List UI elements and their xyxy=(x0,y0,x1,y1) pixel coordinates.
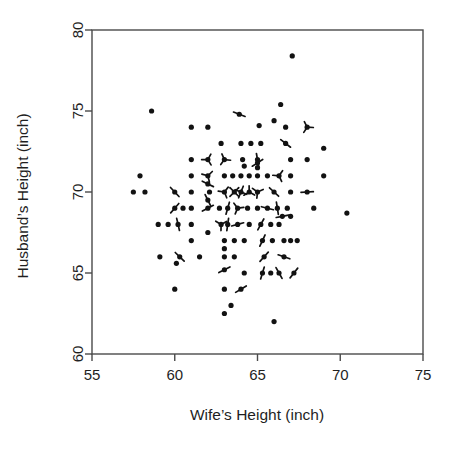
data-point xyxy=(247,173,252,178)
data-point xyxy=(202,205,213,211)
point-marker xyxy=(222,157,227,162)
data-point xyxy=(276,268,282,279)
data-point xyxy=(278,254,290,259)
point-marker xyxy=(175,222,180,227)
data-point xyxy=(255,206,260,211)
point-marker xyxy=(218,222,223,227)
data-point xyxy=(305,157,310,162)
data-point xyxy=(288,173,293,178)
data-point xyxy=(270,188,279,196)
data-point xyxy=(311,206,316,211)
point-marker xyxy=(245,206,250,211)
point-marker xyxy=(285,206,290,211)
point-marker xyxy=(258,222,263,227)
point-marker xyxy=(344,210,349,215)
data-point xyxy=(232,238,237,243)
data-point xyxy=(174,261,179,266)
data-point xyxy=(301,189,313,194)
point-marker xyxy=(276,270,281,275)
data-point xyxy=(236,286,247,292)
point-marker xyxy=(255,189,260,194)
point-marker xyxy=(218,141,223,146)
data-point xyxy=(205,125,210,130)
point-marker xyxy=(238,189,243,194)
point-marker xyxy=(230,173,235,178)
point-marker xyxy=(166,222,171,227)
point-marker xyxy=(260,238,265,243)
data-point xyxy=(207,189,212,194)
point-marker xyxy=(271,118,276,123)
point-marker xyxy=(242,238,247,243)
data-point xyxy=(252,188,263,198)
point-marker xyxy=(238,287,243,292)
point-marker xyxy=(222,246,227,251)
data-point xyxy=(261,206,273,211)
point-marker xyxy=(255,160,260,165)
point-marker xyxy=(222,287,227,292)
point-marker xyxy=(235,222,240,227)
point-marker xyxy=(237,112,242,117)
point-marker xyxy=(232,238,237,243)
y-tick-label: 80 xyxy=(69,22,86,39)
data-point xyxy=(321,146,326,151)
data-point xyxy=(230,188,239,197)
x-tick-label: 55 xyxy=(84,366,101,383)
data-point xyxy=(304,122,314,133)
point-marker xyxy=(205,173,210,178)
point-marker xyxy=(131,189,136,194)
data-point xyxy=(290,53,295,58)
data-point xyxy=(202,181,213,186)
x-tick-label: 75 xyxy=(415,366,432,383)
point-marker xyxy=(288,189,293,194)
data-point xyxy=(137,173,142,178)
point-marker xyxy=(255,173,260,178)
point-marker xyxy=(276,222,281,227)
point-marker xyxy=(174,261,179,266)
point-marker xyxy=(205,181,210,186)
data-point xyxy=(222,173,227,178)
data-point xyxy=(268,270,273,275)
data-point xyxy=(265,173,270,178)
data-point xyxy=(225,202,230,214)
x-tick-label: 60 xyxy=(166,366,183,383)
point-marker xyxy=(197,254,202,259)
point-marker xyxy=(305,189,310,194)
data-point xyxy=(255,173,260,178)
point-marker xyxy=(172,206,177,211)
data-point xyxy=(245,206,250,211)
point-marker xyxy=(242,270,247,275)
point-marker xyxy=(225,206,230,211)
data-point xyxy=(238,141,243,146)
data-point xyxy=(281,140,291,148)
data-point xyxy=(222,287,227,292)
data-point xyxy=(189,173,194,178)
point-marker xyxy=(189,222,194,227)
data-point xyxy=(288,157,293,162)
data-point xyxy=(225,218,230,230)
data-point xyxy=(175,218,180,230)
data-point xyxy=(258,219,264,230)
point-marker xyxy=(288,173,293,178)
data-point xyxy=(222,254,227,259)
data-point xyxy=(189,189,194,194)
data-point xyxy=(142,189,147,194)
y-axis-ticks: 6065707580 xyxy=(69,22,93,363)
data-point xyxy=(189,125,194,130)
data-point xyxy=(242,238,247,243)
point-marker xyxy=(311,206,316,211)
data-point xyxy=(234,203,244,214)
data-point xyxy=(189,222,194,227)
point-marker xyxy=(205,206,210,211)
point-marker xyxy=(205,157,210,162)
point-marker xyxy=(240,157,245,162)
point-marker xyxy=(291,270,296,275)
data-point xyxy=(260,235,265,246)
point-marker xyxy=(142,189,147,194)
point-marker xyxy=(222,267,227,272)
data-point xyxy=(238,173,243,178)
data-point xyxy=(255,165,260,170)
data-point xyxy=(230,173,235,178)
point-marker xyxy=(172,287,177,292)
point-marker xyxy=(268,270,273,275)
data-point xyxy=(240,157,245,162)
